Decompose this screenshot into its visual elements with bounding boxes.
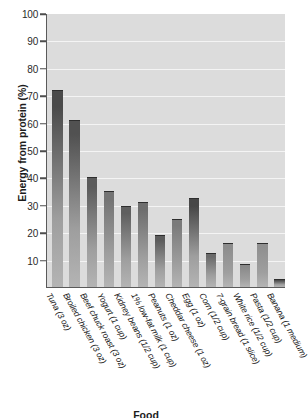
bar-series [47, 14, 285, 287]
bar [274, 279, 284, 287]
x-axis-title: Food [0, 409, 292, 418]
bar [223, 243, 233, 287]
bar [189, 198, 199, 287]
bar [52, 90, 62, 287]
plot-area [46, 14, 285, 288]
bar [87, 177, 97, 287]
bar [257, 243, 267, 287]
bar [69, 120, 79, 287]
bar [138, 202, 148, 287]
x-axis-tick-labels: Tuna (3 oz)Broiled chicken (3 oz)Beef ch… [0, 291, 292, 401]
bar [206, 253, 216, 287]
bar [172, 219, 182, 288]
bar [104, 191, 114, 287]
bar [240, 264, 250, 287]
bar [121, 206, 131, 287]
bar [155, 235, 165, 287]
